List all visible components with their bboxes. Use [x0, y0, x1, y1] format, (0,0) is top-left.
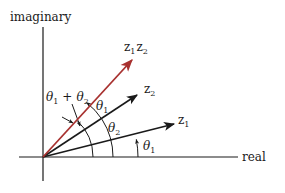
real-axis-label: real	[242, 150, 266, 164]
label-z1: z1	[178, 113, 189, 129]
label-theta2-middle: θ2	[108, 121, 120, 137]
imaginary-axis-label: imaginary	[10, 10, 72, 24]
label-z2: z2	[144, 82, 155, 98]
label-theta1-lower: θ1	[143, 139, 155, 155]
theta1-pointer	[62, 117, 73, 123]
complex-multiplication-diagram: imaginary real z1z2 z2 z1 θ1+θ2 θ1 θ2 θ1	[0, 0, 285, 193]
vector-z1z2	[43, 60, 132, 157]
label-theta1-upper: θ1	[96, 99, 108, 115]
label-z1z2: z1z2	[124, 40, 148, 56]
theta-sum-pointer	[72, 104, 80, 126]
theta1-lower-arc	[136, 139, 138, 157]
label-theta-sum: θ1+θ2	[46, 90, 89, 106]
